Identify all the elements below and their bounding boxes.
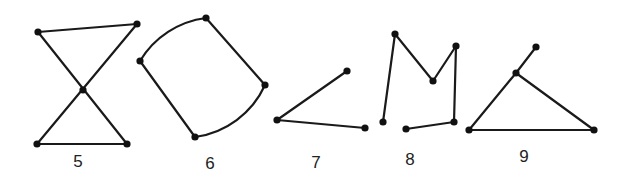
vertex-dot-icon: [33, 140, 40, 147]
polygon-examples-diagram: 56789: [0, 0, 629, 178]
vertex-dot-icon: [136, 57, 143, 64]
edge: [383, 34, 395, 122]
edge: [277, 120, 365, 128]
vertex-dot-icon: [79, 86, 86, 93]
vertex-dot-icon: [343, 67, 350, 74]
vertex-dot-icon: [465, 126, 472, 133]
vertex-dot-icon: [379, 118, 386, 125]
figure-5: 5: [33, 20, 140, 171]
vertex-dot-icon: [261, 81, 268, 88]
vertex-dot-icon: [590, 126, 597, 133]
figure-8: 8: [379, 30, 459, 169]
vertex-dot-icon: [273, 116, 280, 123]
curved-edge: [195, 85, 265, 137]
figure-label: 8: [405, 150, 414, 169]
vertex-dot-icon: [202, 14, 209, 21]
vertex-dot-icon: [391, 30, 398, 37]
vertex-dot-icon: [532, 43, 539, 50]
edge: [406, 122, 454, 129]
figure-label: 5: [73, 152, 82, 171]
vertex-dot-icon: [123, 140, 130, 147]
vertex-dot-icon: [402, 125, 409, 132]
figure-6: 6: [136, 14, 268, 173]
edge: [37, 24, 137, 144]
figure-label: 9: [519, 147, 528, 166]
vertex-dot-icon: [450, 118, 457, 125]
edge: [395, 34, 433, 81]
figure-label: 6: [205, 154, 214, 173]
figure-label: 7: [311, 153, 320, 172]
vertex-dot-icon: [34, 28, 41, 35]
edge: [454, 46, 456, 122]
edge: [277, 71, 347, 120]
vertex-dot-icon: [191, 133, 198, 140]
edge: [433, 46, 456, 81]
edge: [140, 61, 195, 137]
figure-9: 9: [465, 43, 597, 166]
vertex-dot-icon: [452, 42, 459, 49]
figures-layer: 56789: [33, 14, 597, 173]
vertex-dot-icon: [133, 20, 140, 27]
edge: [516, 47, 536, 73]
vertex-dot-icon: [361, 124, 368, 131]
curved-edge: [140, 18, 206, 61]
vertex-dot-icon: [429, 77, 436, 84]
vertex-dot-icon: [512, 69, 519, 76]
diagram-svg: 56789: [0, 0, 629, 178]
edge: [38, 24, 137, 32]
edge: [469, 73, 516, 130]
figure-7: 7: [273, 67, 368, 172]
edge: [206, 18, 265, 85]
edge: [516, 73, 594, 130]
